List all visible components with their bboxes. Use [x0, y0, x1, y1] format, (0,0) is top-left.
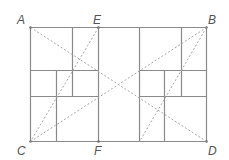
point-label-f: F [94, 145, 101, 157]
point-marker [97, 140, 99, 142]
diagram-canvas [0, 0, 229, 160]
point-label-c: C [17, 145, 26, 157]
point-label-d: D [208, 145, 217, 157]
point-label-e: E [93, 14, 101, 26]
point-label-a: A [17, 14, 25, 26]
dashed-diagonal-line [140, 28, 207, 142]
point-label-b: B [208, 14, 216, 26]
dashed-diagonal-line [31, 28, 99, 142]
